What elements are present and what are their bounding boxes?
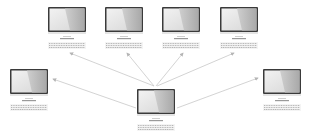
computer-top-4-icon <box>220 7 258 49</box>
center-computer-icon <box>137 89 175 131</box>
computer-top-2-icon <box>105 7 143 49</box>
computer-top-1-icon <box>48 7 86 49</box>
computer-right-icon <box>263 69 301 111</box>
computer-top-3-icon <box>162 7 200 49</box>
arrow-to-top-1 <box>70 53 154 86</box>
arrow-to-left <box>53 79 136 108</box>
network-diagram <box>0 0 315 140</box>
computer-left-icon <box>10 69 48 111</box>
arrow-to-right <box>177 78 258 108</box>
arrow-to-top-4 <box>157 53 234 86</box>
